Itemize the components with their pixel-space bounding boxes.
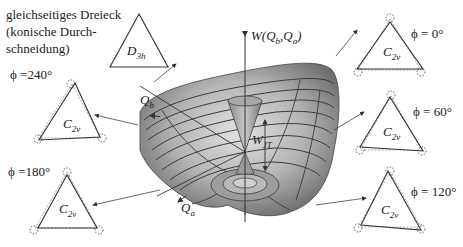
pointer-240 (95, 115, 138, 125)
caption-line-3: schneidung) (6, 40, 121, 57)
triangle-phi-120 (354, 167, 425, 233)
wjt-main: W (252, 132, 263, 147)
caption-line-2: (konische Durch- (6, 23, 121, 40)
qb-main: Q (140, 92, 149, 107)
c2v-main: C (63, 116, 72, 131)
qb-sub: b (149, 100, 154, 110)
wjt-label: WJT (252, 132, 272, 150)
c2v-label-phi-240: C2v (63, 116, 80, 134)
c2v-main: C (383, 44, 392, 59)
d3h-main: D (127, 43, 136, 58)
caption-equilateral-triangle: gleichseitiges Dreieck (konische Durch- … (6, 6, 121, 57)
qa-sub: a (190, 208, 195, 218)
c2v-label-phi-60: C2v (383, 124, 400, 142)
c2v-main: C (383, 124, 392, 139)
qa-label: Qa (181, 200, 195, 218)
triangle-phi-60 (356, 91, 426, 155)
c2v-main: C (381, 202, 390, 217)
qb-label: Qb (140, 92, 154, 110)
d3h-label: D3h (127, 43, 145, 61)
c2v-label-phi-180: C2v (59, 201, 76, 219)
phi-60-label: ϕ = 60° (413, 104, 452, 119)
w-axis-label: W(Qb,Qa) (251, 28, 302, 46)
pointer-120 (316, 198, 366, 205)
c2v-sub: 2v (390, 210, 399, 220)
c2v-main: C (59, 201, 68, 216)
c2v-label-phi-120: C2v (381, 202, 398, 220)
phi-180-label: ϕ =180° (8, 164, 50, 179)
phi-240-label: ϕ =240° (10, 67, 52, 82)
c2v-label-phi-0: C2v (383, 44, 400, 62)
pointer-180 (93, 190, 160, 205)
c2v-sub: 2v (68, 209, 77, 219)
c2v-sub: 2v (392, 52, 401, 62)
phi-120-label: ϕ = 120° (411, 184, 456, 199)
potential-surface (140, 63, 339, 216)
phi-0-label: ϕ = 0° (411, 26, 443, 41)
caption-line-1: gleichseitiges Dreieck (6, 6, 121, 23)
pointer-0 (336, 30, 357, 56)
d3h-sub: 3h (136, 51, 145, 61)
qa-main: Q (181, 200, 190, 215)
c2v-sub: 2v (72, 124, 81, 134)
jahn-teller-diagram: gleichseitiges Dreieck (konische Durch- … (0, 0, 463, 247)
c2v-sub: 2v (392, 132, 401, 142)
wjt-sub: JT (263, 140, 272, 150)
